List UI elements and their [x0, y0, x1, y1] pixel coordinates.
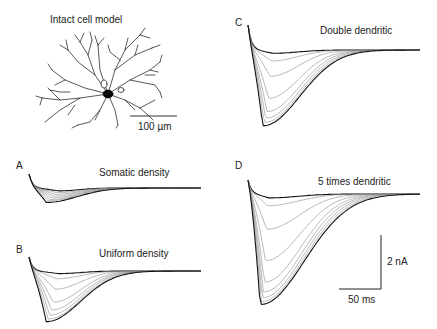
- current-scale-label: 2 nA: [387, 257, 408, 267]
- panel-a-traces: [29, 174, 201, 202]
- current-trace: [248, 180, 420, 304]
- current-time-scale-bar: [339, 235, 381, 289]
- panel-d-letter: D: [235, 161, 242, 171]
- panel-d-traces: [248, 180, 420, 304]
- panel-c-title: Double dendritic: [320, 26, 392, 36]
- current-trace: [248, 180, 420, 261]
- current-trace: [248, 25, 420, 122]
- current-trace: [29, 257, 201, 315]
- neuron-morphology-icon: [36, 28, 162, 128]
- micron-scale-label: 100 µm: [138, 122, 172, 132]
- current-trace: [248, 180, 420, 292]
- panel-a-title: Somatic density: [99, 168, 170, 178]
- current-trace: [248, 25, 420, 118]
- panel-b-letter: B: [16, 245, 23, 255]
- current-trace: [248, 25, 420, 112]
- current-trace: [29, 174, 201, 201]
- panel-d-title: 5 times dendritic: [318, 177, 391, 187]
- figure-canvas: [0, 0, 437, 329]
- panel-b-title: Uniform density: [99, 249, 168, 259]
- panel-c-letter: C: [235, 18, 242, 28]
- current-trace: [29, 257, 201, 302]
- panel-b-traces: [29, 257, 201, 322]
- panel-c-traces: [248, 25, 420, 126]
- time-scale-label: 50 ms: [348, 295, 375, 305]
- panel-a-letter: A: [16, 161, 23, 171]
- current-trace: [29, 257, 201, 322]
